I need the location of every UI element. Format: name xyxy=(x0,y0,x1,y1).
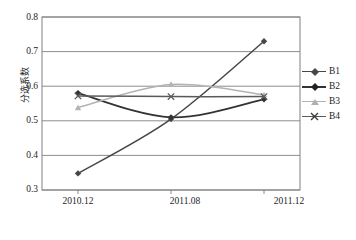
legend-swatch-b1 xyxy=(302,66,326,77)
legend-item-b4[interactable]: B4 xyxy=(302,109,340,124)
diamond-icon xyxy=(311,68,319,78)
legend-item-b1[interactable]: B1 xyxy=(302,64,340,79)
series-b4 xyxy=(75,93,267,100)
legend-swatch-b3 xyxy=(302,96,326,107)
triangle-icon xyxy=(311,98,319,108)
x-tick-marks xyxy=(78,190,264,194)
legend-swatch-b2 xyxy=(302,81,326,92)
legend-label-b4: B4 xyxy=(329,111,340,122)
legend-label-b2: B2 xyxy=(329,81,340,92)
legend-item-b3[interactable]: B3 xyxy=(302,94,340,109)
diamond-icon xyxy=(311,83,319,93)
series-b2 xyxy=(75,90,267,121)
chart-legend: B1 B2 B3 B4 xyxy=(302,64,340,124)
legend-item-b2[interactable]: B2 xyxy=(302,79,340,94)
legend-label-b1: B1 xyxy=(329,66,340,77)
legend-swatch-b4 xyxy=(302,111,326,122)
data-point-diamond xyxy=(75,170,81,176)
cross-icon xyxy=(310,112,319,123)
legend-label-b3: B3 xyxy=(329,96,340,107)
